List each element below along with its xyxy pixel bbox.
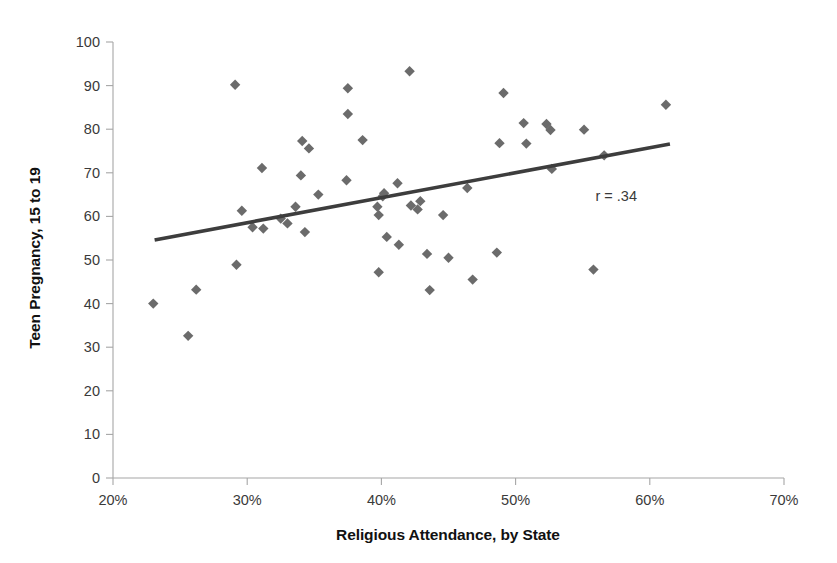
scatter-point bbox=[343, 109, 353, 119]
scatter-point bbox=[230, 80, 240, 90]
scatter-points bbox=[148, 66, 671, 341]
scatter-point bbox=[494, 138, 504, 148]
x-tick-label: 20% bbox=[98, 492, 127, 508]
scatter-point bbox=[392, 178, 402, 188]
correlation-annotation: r = .34 bbox=[595, 188, 637, 204]
y-tick-label: 80 bbox=[84, 121, 100, 137]
x-axis-label: Religious Attendance, by State bbox=[336, 526, 560, 543]
y-tick-label: 20 bbox=[84, 383, 100, 399]
scatter-point bbox=[231, 260, 241, 270]
scatter-point bbox=[341, 175, 351, 185]
x-tick-label: 40% bbox=[367, 492, 396, 508]
y-tick-label: 40 bbox=[84, 296, 100, 312]
y-tick-label: 100 bbox=[76, 34, 100, 50]
scatter-point bbox=[374, 210, 384, 220]
y-tick-label: 50 bbox=[84, 252, 100, 268]
scatter-point bbox=[425, 285, 435, 295]
x-tick-label: 60% bbox=[635, 492, 664, 508]
scatter-point bbox=[300, 227, 310, 237]
scatter-point bbox=[237, 206, 247, 216]
scatter-point bbox=[462, 183, 472, 193]
scatter-point bbox=[372, 202, 382, 212]
scatter-point bbox=[661, 100, 671, 110]
scatter-point bbox=[258, 223, 268, 233]
scatter-point bbox=[394, 240, 404, 250]
scatter-point bbox=[191, 284, 201, 294]
scatter-point bbox=[382, 232, 392, 242]
scatter-point bbox=[415, 196, 425, 206]
scatter-point bbox=[492, 247, 502, 257]
scatter-point bbox=[498, 88, 508, 98]
x-axis-tick-marks bbox=[113, 478, 784, 485]
scatter-point bbox=[357, 135, 367, 145]
scatter-point bbox=[257, 163, 267, 173]
scatter-point bbox=[518, 118, 528, 128]
x-tick-label: 70% bbox=[769, 492, 798, 508]
y-tick-label: 60 bbox=[84, 208, 100, 224]
scatter-point bbox=[404, 66, 414, 76]
y-axis-tick-labels: 0102030405060708090100 bbox=[76, 34, 100, 486]
x-tick-label: 50% bbox=[501, 492, 530, 508]
scatter-point bbox=[304, 143, 314, 153]
x-axis-tick-labels: 20%30%40%50%60%70% bbox=[98, 492, 798, 508]
scatter-point bbox=[438, 210, 448, 220]
chart-annotations: r = .34 bbox=[595, 188, 637, 204]
scatter-point bbox=[467, 274, 477, 284]
scatter-point bbox=[183, 331, 193, 341]
scatter-point bbox=[422, 249, 432, 259]
chart-canvas: 0102030405060708090100 20%30%40%50%60%70… bbox=[0, 0, 837, 563]
scatter-point bbox=[521, 138, 531, 148]
scatter-point bbox=[313, 189, 323, 199]
scatter-point bbox=[374, 267, 384, 277]
y-tick-label: 70 bbox=[84, 165, 100, 181]
scatter-point bbox=[296, 170, 306, 180]
scatter-point bbox=[579, 124, 589, 134]
y-tick-label: 10 bbox=[84, 426, 100, 442]
scatter-point bbox=[290, 202, 300, 212]
scatter-chart: 0102030405060708090100 20%30%40%50%60%70… bbox=[0, 0, 837, 563]
y-tick-label: 90 bbox=[84, 78, 100, 94]
scatter-point bbox=[443, 253, 453, 263]
trend-line bbox=[155, 144, 670, 240]
y-axis-label: Teen Pregnancy, 15 to 19 bbox=[26, 167, 43, 349]
scatter-point bbox=[297, 136, 307, 146]
y-axis-tick-marks bbox=[106, 42, 113, 478]
scatter-point bbox=[148, 298, 158, 308]
y-tick-label: 30 bbox=[84, 339, 100, 355]
y-tick-label: 0 bbox=[92, 470, 100, 486]
x-tick-label: 30% bbox=[233, 492, 262, 508]
scatter-point bbox=[343, 83, 353, 93]
scatter-point bbox=[588, 264, 598, 274]
